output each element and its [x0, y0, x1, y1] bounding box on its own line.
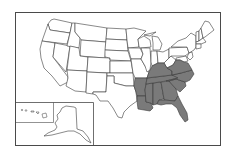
- state-mississippi: [145, 83, 153, 105]
- state-connecticut: [196, 44, 201, 49]
- state-new-mexico: [86, 72, 107, 94]
- state-hawaii: [21, 109, 47, 118]
- state-wyoming: [80, 40, 106, 58]
- state-vermont: [196, 31, 199, 42]
- state-kansas: [110, 61, 133, 73]
- us-map-svg: [0, 0, 231, 158]
- state-wisconsin: [138, 36, 151, 48]
- state-iowa: [128, 48, 143, 59]
- state-colorado: [87, 57, 110, 73]
- state-maine: [201, 21, 214, 38]
- state-south-dakota: [105, 39, 128, 51]
- state-north-dakota: [106, 28, 127, 40]
- us-map: [0, 0, 231, 158]
- inset-area: [16, 103, 94, 146]
- state-arizona: [66, 70, 87, 92]
- inset-border: [16, 103, 94, 146]
- state-alaska: [44, 106, 91, 143]
- hawaii-inset-border: [16, 103, 54, 123]
